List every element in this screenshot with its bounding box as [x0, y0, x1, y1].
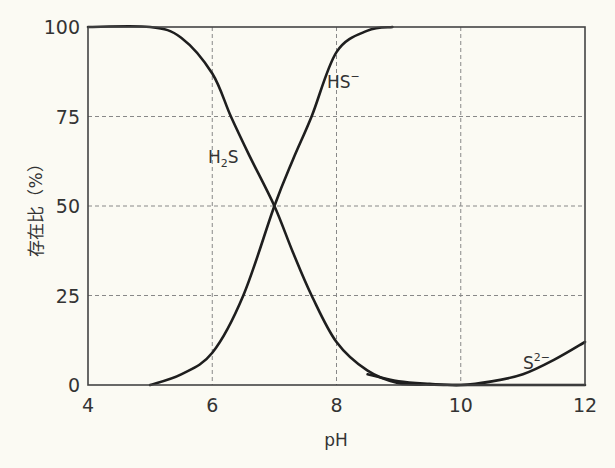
label-hs-minus: HS− — [327, 70, 360, 92]
y-tick-label: 75 — [56, 106, 80, 128]
x-tick-label: 12 — [573, 394, 597, 416]
x-axis-label: pH — [324, 430, 348, 450]
species-distribution-chart: 0255075100 4681012 pH 存在比（%） H2S HS− S2− — [0, 0, 615, 468]
y-tick-label: 0 — [68, 374, 80, 396]
x-tick-label: 4 — [82, 394, 94, 416]
y-tick-label: 25 — [56, 285, 80, 307]
y-tick-label: 50 — [56, 195, 80, 217]
x-tick-label: 10 — [449, 394, 473, 416]
y-axis-label: 存在比（%） — [26, 155, 46, 256]
x-tick-label: 6 — [206, 394, 218, 416]
x-tick-label: 8 — [330, 394, 342, 416]
label-h2s: H2S — [208, 147, 239, 170]
y-axis-ticks: 0255075100 — [44, 16, 80, 396]
y-tick-label: 100 — [44, 16, 80, 38]
curve-s2- — [368, 342, 585, 385]
x-axis-ticks: 4681012 — [82, 394, 597, 416]
